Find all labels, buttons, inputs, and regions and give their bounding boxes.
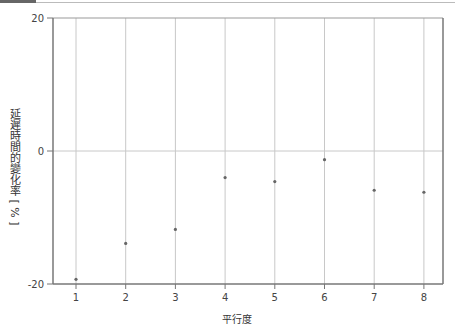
x-axis-label: 平行度 [222, 311, 252, 326]
x-tick-label: 5 [272, 292, 278, 303]
x-tick-label: 4 [222, 292, 228, 303]
data-point [373, 189, 376, 192]
data-point [422, 191, 425, 194]
y-tick-label: 20 [31, 13, 44, 24]
x-tick-label: 2 [123, 292, 129, 303]
x-tick-label: 3 [172, 292, 178, 303]
y-tick-label: -20 [28, 279, 44, 290]
x-tick-label: 6 [321, 292, 327, 303]
data-point [323, 158, 326, 161]
data-point [74, 278, 77, 281]
x-tick-label: 8 [421, 292, 427, 303]
x-tick-label: 7 [371, 292, 377, 303]
scatter-chart: 200-2012345678 [0, 0, 455, 330]
data-point [224, 176, 227, 179]
x-tick-label: 1 [73, 292, 79, 303]
y-axis-label: 延遲時間的變化率 [ % ] [6, 108, 20, 226]
data-point [273, 180, 276, 183]
y-tick-label: 0 [38, 146, 44, 157]
data-point [124, 242, 127, 245]
data-point [174, 228, 177, 231]
